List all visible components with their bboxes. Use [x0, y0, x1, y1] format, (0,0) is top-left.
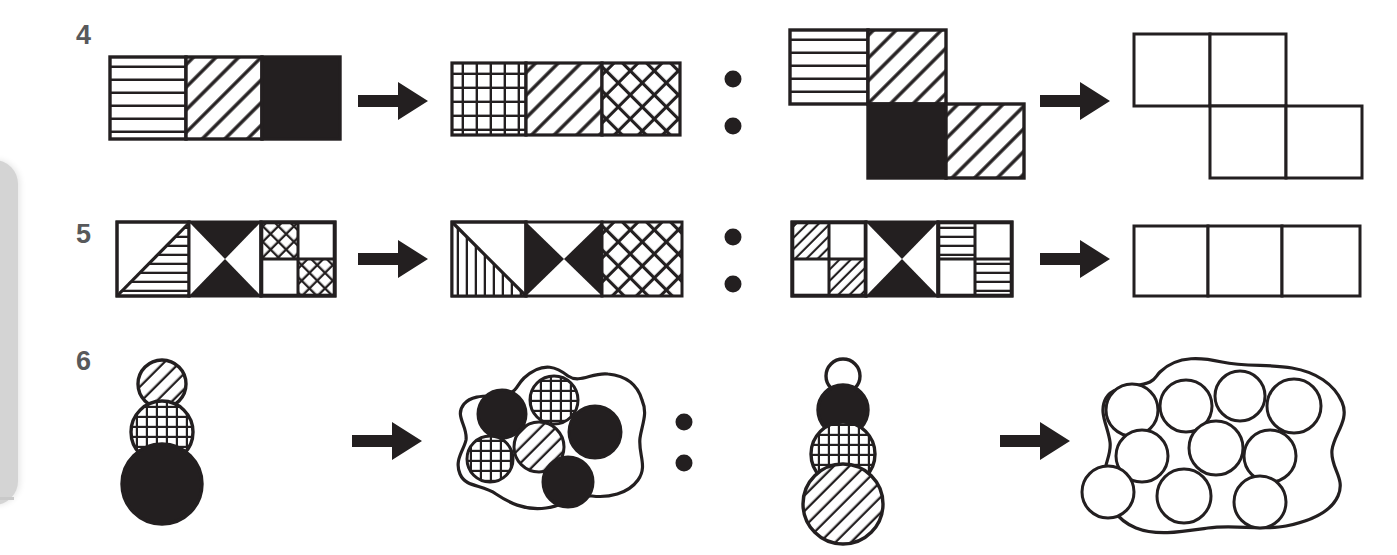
ratio-colon-icon — [673, 413, 695, 473]
row4-left-target-bar — [450, 61, 682, 137]
row6-right-target-answer-blank[interactable] — [1094, 356, 1386, 542]
row5-right-target-answer-blank[interactable] — [1132, 224, 1362, 298]
row5-left-target-bar — [450, 220, 684, 298]
ratio-colon-icon — [722, 228, 744, 296]
row6-left-target-blob — [452, 362, 692, 518]
row-number-6: 6 — [76, 348, 91, 375]
row-number-5: 5 — [76, 221, 91, 248]
row6-left-source-stacked-circles — [108, 358, 216, 518]
row6-right-source-stacked-circles — [790, 356, 896, 520]
arrow-right-icon — [358, 236, 430, 282]
ratio-colon-icon — [722, 70, 744, 138]
row-number-4: 4 — [76, 22, 91, 49]
page-edge-artifact — [0, 160, 18, 505]
row4-left-source-bar — [108, 55, 342, 141]
arrow-right-icon — [1040, 78, 1112, 124]
row4-right-target-answer-blank[interactable] — [1132, 32, 1364, 180]
row5-left-source-bar — [115, 220, 337, 298]
arrow-right-icon — [352, 418, 424, 464]
row5-right-source-bar — [790, 220, 1014, 298]
arrow-right-icon — [1000, 418, 1072, 464]
page-edge-line-artifact — [0, 497, 14, 500]
arrow-right-icon — [1040, 236, 1112, 282]
worksheet-page: 4 5 — [0, 0, 1397, 555]
arrow-right-icon — [358, 78, 430, 124]
row4-right-source-ztetromino — [788, 28, 1026, 180]
